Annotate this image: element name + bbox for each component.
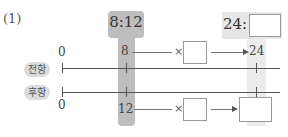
antecedent-value: 8 <box>121 44 129 58</box>
antecedent-connector <box>132 52 172 53</box>
antecedent-number-line <box>62 68 280 69</box>
consequent-times-symbol: × <box>174 102 183 115</box>
consequent-arrow-line <box>211 109 233 110</box>
target-ratio-answer-box[interactable] <box>249 14 281 37</box>
antecedent-row-label: 전항 <box>24 62 50 77</box>
antecedent-arrow-line <box>211 52 244 53</box>
consequent-result-tick <box>256 87 257 97</box>
consequent-result-box[interactable] <box>239 97 272 122</box>
consequent-connector <box>134 109 172 110</box>
consequent-zero-tick <box>62 87 63 97</box>
consequent-number-line <box>62 92 280 93</box>
antecedent-result: 24 <box>249 44 264 58</box>
antecedent-times-symbol: × <box>174 45 183 58</box>
antecedent-zero-label: 0 <box>58 45 66 59</box>
consequent-value-tick <box>126 87 127 97</box>
consequent-zero-label: 0 <box>58 98 66 112</box>
consequent-row-label: 후항 <box>24 85 50 100</box>
antecedent-multiplier-box[interactable] <box>183 41 207 64</box>
problem-number: (1) <box>3 11 21 26</box>
antecedent-result-tick <box>256 63 257 73</box>
given-ratio: 8:12 <box>108 13 144 31</box>
consequent-multiplier-box[interactable] <box>183 98 207 121</box>
consequent-value: 12 <box>118 102 133 116</box>
antecedent-value-tick <box>126 63 127 73</box>
antecedent-zero-tick <box>62 63 63 73</box>
target-ratio-antecedent: 24: <box>223 15 247 33</box>
consequent-arrow-icon <box>232 106 238 112</box>
